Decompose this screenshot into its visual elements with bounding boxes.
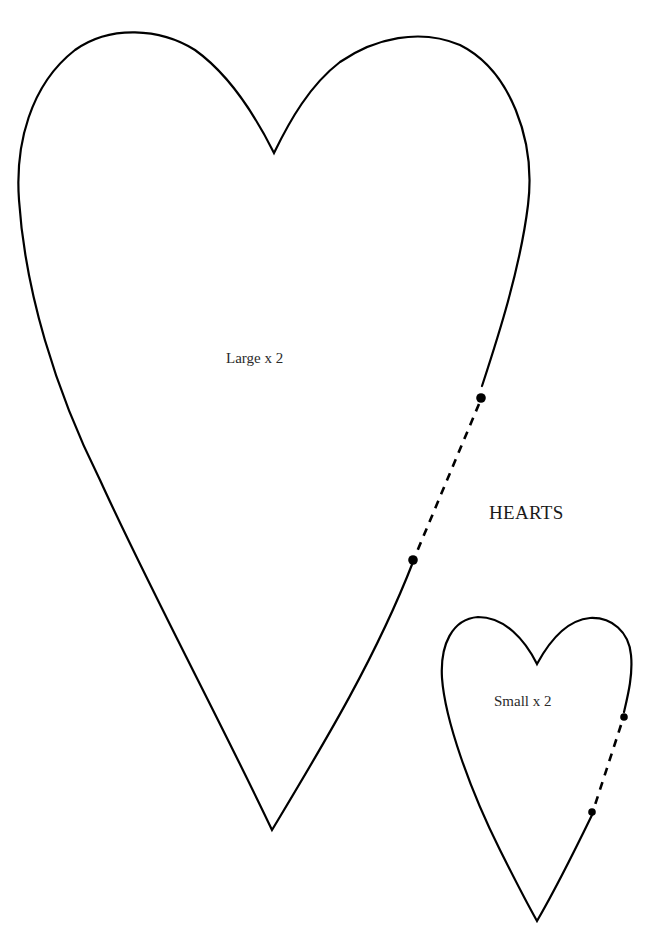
large-heart-lower-dot bbox=[408, 555, 418, 565]
pattern-title: HEARTS bbox=[489, 503, 564, 522]
small-heart-label: Small x 2 bbox=[494, 694, 552, 709]
large-heart-upper-dot bbox=[476, 393, 486, 403]
large-heart-label: Large x 2 bbox=[226, 351, 283, 366]
small-heart-lower-dot bbox=[588, 808, 596, 816]
large-heart-fold-line bbox=[416, 404, 479, 554]
small-heart-fold-line bbox=[595, 725, 621, 805]
small-heart-outline bbox=[442, 617, 632, 921]
large-heart-shape bbox=[18, 32, 529, 830]
small-heart-upper-dot bbox=[620, 713, 628, 721]
pattern-canvas bbox=[0, 0, 646, 936]
small-heart-shape bbox=[442, 617, 632, 921]
large-heart-outline bbox=[18, 32, 529, 830]
